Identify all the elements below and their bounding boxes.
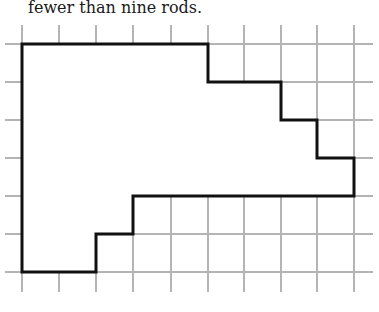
rod-shape-outline xyxy=(22,44,354,272)
grid-diagram xyxy=(0,0,379,312)
